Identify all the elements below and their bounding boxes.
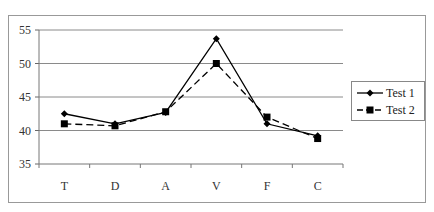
diamond-marker-icon (356, 85, 384, 101)
x-tick-label: D (111, 179, 120, 193)
x-tick-label: C (314, 179, 322, 193)
y-tick-label: 35 (19, 157, 31, 171)
square-marker-icon (264, 114, 271, 121)
x-axis: TDAVFC (39, 164, 343, 193)
square-marker-icon (356, 102, 384, 118)
square-marker-icon (162, 108, 169, 115)
x-tick-label: V (212, 179, 221, 193)
y-tick-label: 45 (19, 90, 31, 104)
square-marker-icon (213, 60, 220, 67)
series-lines (61, 35, 321, 142)
legend-label: Test 1 (386, 85, 415, 101)
x-tick-label: A (161, 179, 170, 193)
square-marker-icon (314, 135, 321, 142)
y-tick-label: 55 (19, 23, 31, 37)
diamond-marker-icon (264, 120, 271, 127)
diamond-marker-icon (61, 110, 68, 117)
legend: Test 1 Test 2 (351, 81, 425, 121)
gridlines (39, 30, 343, 131)
legend-label: Test 2 (386, 102, 415, 118)
y-tick-label: 40 (19, 124, 31, 138)
legend-item-test-2: Test 2 (356, 102, 424, 118)
legend-item-test-1: Test 1 (356, 85, 424, 101)
x-tick-label: T (61, 179, 69, 193)
y-tick-label: 50 (19, 57, 31, 71)
x-tick-label: F (264, 179, 271, 193)
square-marker-icon (61, 120, 68, 127)
y-axis: 3540455055 (19, 23, 39, 171)
square-marker-icon (112, 122, 119, 129)
